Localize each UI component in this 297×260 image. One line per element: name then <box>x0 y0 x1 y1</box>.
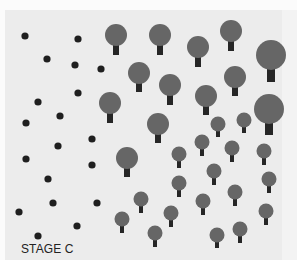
tree-canopy <box>147 113 169 135</box>
tree-trunk <box>212 178 216 185</box>
tree-canopy <box>195 85 217 107</box>
tree-trunk <box>167 95 173 105</box>
tree-trunk <box>232 87 238 96</box>
forest-succession-diagram <box>0 0 297 260</box>
tree-trunk <box>267 69 275 82</box>
seed-dot <box>97 65 104 72</box>
tree-trunk <box>177 190 181 197</box>
tree-icon <box>164 206 179 228</box>
tree-icon <box>254 94 284 135</box>
tree-icon <box>195 85 217 115</box>
seed-dot <box>22 155 29 162</box>
tree-icon <box>262 172 277 194</box>
tree-canopy <box>115 212 130 227</box>
tree-trunk <box>216 131 220 137</box>
tree-icon <box>99 92 121 123</box>
tree-icon <box>159 74 181 105</box>
tree-icon <box>259 204 274 226</box>
tree-canopy <box>254 94 284 124</box>
tree-trunk <box>238 236 242 243</box>
tree-trunk <box>242 127 246 133</box>
tree-icon <box>172 176 187 198</box>
tree-canopy <box>134 192 149 207</box>
tree-icon <box>116 147 138 177</box>
tree-canopy <box>196 194 211 209</box>
tree-icon <box>105 24 127 55</box>
tree-canopy <box>99 92 121 114</box>
tree-canopy <box>148 226 163 241</box>
tree-canopy <box>149 24 171 46</box>
tree-trunk <box>262 158 266 165</box>
tree-icon <box>147 113 169 143</box>
tree-trunk <box>113 45 119 55</box>
tree-canopy <box>220 20 242 42</box>
tree-trunk <box>157 45 163 55</box>
tree-trunk <box>177 161 181 168</box>
tree-canopy <box>211 117 226 132</box>
tree-canopy <box>105 24 127 46</box>
tree-icon <box>228 185 243 207</box>
seed-dot <box>54 142 61 149</box>
tree-icon <box>256 40 286 82</box>
seeds-group <box>15 32 104 239</box>
tree-icon <box>115 212 130 234</box>
tree-trunk <box>169 220 173 227</box>
tree-icon <box>210 228 225 249</box>
seed-dot <box>71 61 78 68</box>
tree-trunk <box>153 240 157 247</box>
tree-trunk <box>124 168 130 177</box>
tree-canopy <box>210 228 225 243</box>
stage-label: STAGE C <box>21 243 74 256</box>
tree-trunk <box>203 106 209 115</box>
tree-icon <box>237 113 252 134</box>
tree-trunk <box>233 199 237 206</box>
seed-dot <box>74 89 81 96</box>
tree-trunk <box>267 186 271 193</box>
seed-dot <box>44 175 51 182</box>
seed-dot <box>49 199 56 206</box>
tree-icon <box>211 117 226 138</box>
seed-dot <box>34 98 41 105</box>
tree-icon <box>220 20 242 51</box>
tree-canopy <box>225 141 240 156</box>
tree-canopy <box>195 135 210 150</box>
tree-trunk <box>195 57 201 67</box>
tree-canopy <box>207 164 222 179</box>
tree-icon <box>187 36 209 67</box>
tree-canopy <box>233 222 248 237</box>
tree-canopy <box>259 204 274 219</box>
tree-icon <box>225 141 240 163</box>
tree-icon <box>195 135 210 157</box>
tree-icon <box>149 24 171 55</box>
tree-trunk <box>265 123 273 135</box>
tree-trunk <box>228 41 234 51</box>
tree-canopy <box>262 172 277 187</box>
seed-dot <box>73 222 80 229</box>
tree-trunk <box>264 218 268 225</box>
tree-trunk <box>215 242 219 248</box>
tree-icon <box>224 66 246 96</box>
seed-dot <box>22 119 29 126</box>
seed-dot <box>56 112 63 119</box>
tree-icon <box>172 147 187 169</box>
tree-trunk <box>136 83 142 92</box>
tree-trunk <box>201 208 205 215</box>
tree-canopy <box>172 147 187 162</box>
tree-icon <box>148 226 163 248</box>
tree-icon <box>128 62 150 92</box>
tree-canopy <box>164 206 179 221</box>
tree-icon <box>207 164 222 186</box>
tree-icon <box>257 144 272 166</box>
tree-canopy <box>116 147 138 169</box>
tree-canopy <box>228 185 243 200</box>
tree-trunk <box>200 149 204 156</box>
tree-canopy <box>159 74 181 96</box>
tree-trunk <box>230 155 234 162</box>
tree-canopy <box>128 62 150 84</box>
tree-canopy <box>256 40 286 70</box>
seed-dot <box>74 35 81 42</box>
tree-canopy <box>257 144 272 159</box>
seed-dot <box>21 32 28 39</box>
tree-icon <box>196 194 211 216</box>
seed-dot <box>15 208 22 215</box>
